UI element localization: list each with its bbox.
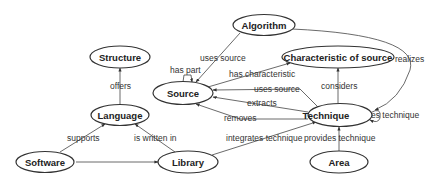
node-characteristic-of-source[interactable]: Characteristic of source: [282, 46, 394, 68]
svg-text:Library: Library: [172, 157, 205, 168]
edge-algorithm-realizes-technique: [292, 29, 411, 110]
edge-label: extracts: [247, 98, 277, 108]
edge-label: offers: [110, 81, 131, 91]
edge-label: supports: [67, 133, 100, 143]
edge-label: integrates technique: [226, 133, 303, 143]
edge-label: is written in: [134, 133, 177, 143]
node-library[interactable]: Library: [158, 151, 218, 173]
edge-label: realizes: [395, 54, 424, 64]
svg-text:Characteristic of source: Characteristic of source: [284, 52, 393, 63]
concept-map: uses source realizes has part has charac…: [0, 0, 436, 185]
svg-text:Software: Software: [25, 157, 65, 168]
edge-label: has characteristic: [229, 69, 296, 79]
node-language[interactable]: Language: [91, 105, 149, 126]
edge-label: provides technique: [304, 133, 376, 143]
svg-text:Language: Language: [98, 110, 143, 121]
svg-text:Structure: Structure: [99, 52, 141, 63]
edge-label: removes: [224, 113, 257, 123]
svg-text:Technique: Technique: [303, 110, 350, 121]
node-area[interactable]: Area: [310, 151, 368, 173]
node-source[interactable]: Source: [153, 82, 213, 105]
svg-text:Area: Area: [328, 157, 350, 168]
edge-label: uses source: [200, 53, 246, 63]
edge-label: has part: [170, 65, 201, 75]
svg-text:Algorithm: Algorithm: [242, 20, 287, 31]
node-structure[interactable]: Structure: [90, 46, 150, 68]
node-software[interactable]: Software: [16, 152, 74, 173]
node-algorithm[interactable]: Algorithm: [233, 15, 295, 36]
edge-label: uses source: [254, 84, 300, 94]
edge-label: considers: [321, 81, 357, 91]
svg-text:Source: Source: [167, 88, 199, 99]
